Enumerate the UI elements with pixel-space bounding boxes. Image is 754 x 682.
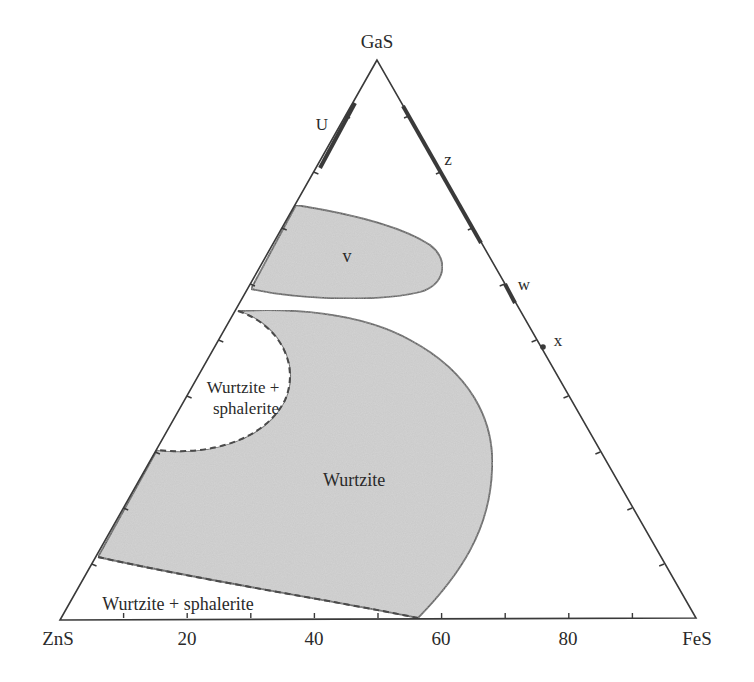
- region-label-two-phase-bottom: Wurtzite + sphalerite: [102, 594, 253, 614]
- point-x: [540, 344, 546, 350]
- tick-label-20: 20: [178, 628, 197, 649]
- vertex-label-fes: FeS: [682, 628, 712, 649]
- wurtzite-region: [98, 310, 492, 618]
- tick-label-60: 60: [432, 628, 451, 649]
- region-label-two-phase-inner-2: sphalerite: [213, 399, 279, 418]
- edge-label-x: x: [554, 331, 563, 350]
- edge-label-z: z: [444, 150, 452, 169]
- region-label-two-phase-inner-1: Wurtzite +: [207, 378, 280, 397]
- region-label-v: v: [343, 246, 352, 266]
- segment-z: [403, 106, 481, 243]
- region-label-wurtzite: Wurtzite: [323, 470, 385, 490]
- segment-w: [505, 284, 515, 303]
- edge-label-u: U: [316, 115, 328, 134]
- segment-u: [320, 103, 355, 168]
- ternary-phase-diagram: GaS ZnS FeS 20 40 60 80 U z w x v Wurtzi…: [0, 0, 754, 682]
- tick-label-80: 80: [559, 628, 578, 649]
- vertex-label-zns: ZnS: [42, 628, 74, 649]
- edge-label-w: w: [518, 275, 531, 294]
- tick-label-40: 40: [305, 628, 324, 649]
- vertex-label-gas: GaS: [361, 31, 394, 52]
